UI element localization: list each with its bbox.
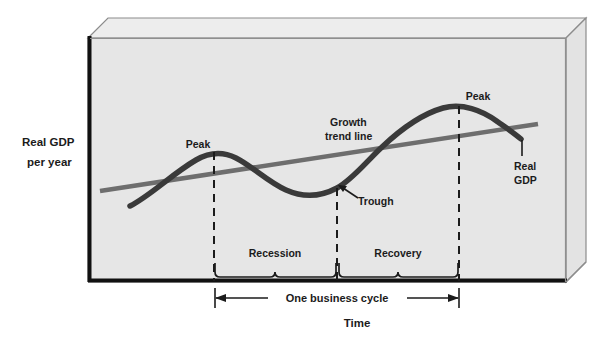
x-axis-label: Time <box>344 317 371 329</box>
one-business-cycle-measure: One business cycle <box>215 288 459 308</box>
cycle-arrowhead-left <box>215 294 226 302</box>
y-axis-label: Real GDP per year <box>22 136 75 168</box>
peak-right-label: Peak <box>466 90 491 102</box>
recovery-label: Recovery <box>374 247 421 259</box>
cycle-arrowhead-right <box>448 294 459 302</box>
panel-3d <box>88 18 586 282</box>
recession-label: Recession <box>249 247 302 259</box>
growth-trend-label-line2: trend line <box>325 130 372 142</box>
growth-trend-label-line1: Growth <box>330 116 367 128</box>
y-axis-label-line2: per year <box>27 156 72 168</box>
business-cycle-diagram: Real GDP per year Peak Peak Growth trend… <box>0 0 614 341</box>
real-gdp-label-line2: GDP <box>514 174 537 186</box>
peak-left-label: Peak <box>186 138 211 150</box>
trough-label: Trough <box>358 195 394 207</box>
panel-front-face <box>88 38 566 282</box>
y-axis-label-line1: Real GDP <box>22 136 75 148</box>
real-gdp-label-line1: Real <box>514 160 536 172</box>
panel-top-face <box>88 18 586 38</box>
one-business-cycle-label: One business cycle <box>286 292 389 304</box>
panel-right-face <box>566 18 586 282</box>
